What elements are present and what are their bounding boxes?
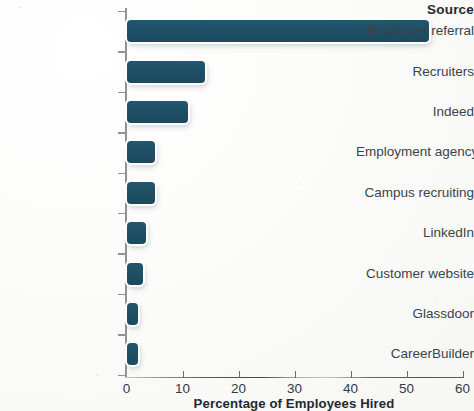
bar-recruiters [127, 61, 205, 83]
bar-customer-website [127, 263, 144, 285]
category-axis-title: Source [356, 2, 474, 17]
bar-linkedin [127, 222, 147, 244]
value-tick-label: 30 [287, 381, 302, 396]
value-tick-label: 10 [175, 381, 190, 396]
value-tick-label: 60 [455, 381, 470, 396]
value-tick [295, 371, 297, 378]
category-label: Employment agency [356, 145, 474, 159]
category-tick [118, 51, 126, 52]
bar-chart-plot-area: Source Employee referralRecruitersIndeed… [0, 0, 474, 411]
category-label: LinkedIn [356, 226, 474, 240]
bar-indeed [127, 101, 189, 123]
category-label: Recruiters [356, 65, 474, 79]
bar-employment-agency [127, 141, 155, 163]
bar-campus-recruiting [127, 182, 155, 204]
category-tick [118, 92, 126, 93]
category-label: Indeed [356, 105, 474, 119]
value-tick-label: 0 [123, 381, 131, 396]
category-tick [118, 334, 126, 335]
category-label: Customer website [356, 267, 474, 281]
category-tick [118, 132, 126, 133]
category-label: Campus recruiting [356, 186, 474, 200]
value-tick-label: 50 [399, 381, 414, 396]
value-tick [463, 371, 465, 378]
category-tick [118, 173, 126, 174]
category-tick [118, 253, 126, 254]
category-tick [118, 375, 126, 376]
value-tick [183, 371, 185, 378]
bar-glassdoor [127, 303, 138, 325]
value-tick [407, 371, 409, 378]
value-axis-title: Percentage of Employees Hired [125, 396, 463, 411]
category-label: CareerBuilder [356, 347, 474, 361]
value-tick-label: 20 [231, 381, 246, 396]
chart-page: Source Employee referralRecruitersIndeed… [0, 0, 474, 411]
category-label: Glassdoor [356, 307, 474, 321]
category-tick [118, 213, 126, 214]
value-tick [239, 371, 241, 378]
value-tick-label: 40 [343, 381, 358, 396]
value-tick [351, 371, 353, 378]
category-tick [118, 11, 126, 12]
category-tick [118, 294, 126, 295]
category-label: Employee referral [356, 24, 474, 38]
bar-careerbuilder [127, 343, 138, 365]
